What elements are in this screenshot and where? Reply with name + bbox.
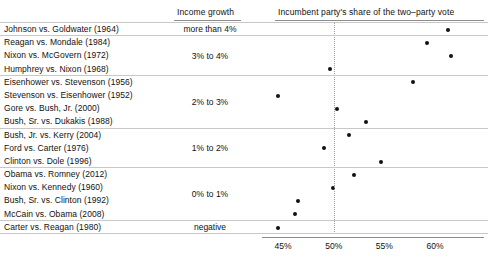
group-separator [0, 22, 488, 23]
group-separator [0, 233, 488, 234]
data-point [293, 212, 297, 216]
data-point [276, 226, 280, 230]
x-axis-tick-label: 55% [376, 241, 393, 251]
data-point [379, 160, 383, 164]
group-separator [0, 128, 488, 129]
income-growth-header-rule [174, 20, 241, 21]
column-header-income-growth: Income growth [177, 7, 234, 17]
group-separator [0, 75, 488, 76]
income-growth-group-label: 3% to 4% [165, 51, 255, 61]
data-point [352, 173, 356, 177]
x-axis-tick-label: 45% [274, 241, 291, 251]
data-point [449, 54, 453, 58]
income-growth-group-label: more than 4% [165, 24, 255, 34]
election-income-growth-chart: Income growth Incumbent party's share of… [0, 0, 488, 258]
income-growth-group-label: negative [165, 222, 255, 232]
data-point [296, 199, 300, 203]
data-point [335, 107, 339, 111]
data-point [347, 133, 351, 137]
column-header-vote-share: Incumbent party's share of the two–party… [278, 7, 454, 17]
group-separator [0, 35, 488, 36]
x-axis-tick-label: 60% [426, 241, 443, 251]
x-axis-tick-label: 50% [325, 241, 342, 251]
data-point [411, 80, 415, 84]
data-point [322, 146, 326, 150]
income-growth-group-label: 2% to 3% [165, 97, 255, 107]
income-growth-group-label: 0% to 1% [165, 189, 255, 199]
data-point [446, 28, 450, 32]
data-point [328, 67, 332, 71]
group-separator [0, 220, 488, 221]
data-point [364, 120, 368, 124]
x-axis-line [262, 237, 484, 238]
income-growth-group-label: 1% to 2% [165, 143, 255, 153]
vote-share-header-rule [275, 20, 484, 21]
data-point [425, 41, 429, 45]
group-separator [0, 167, 488, 168]
data-point [276, 94, 280, 98]
